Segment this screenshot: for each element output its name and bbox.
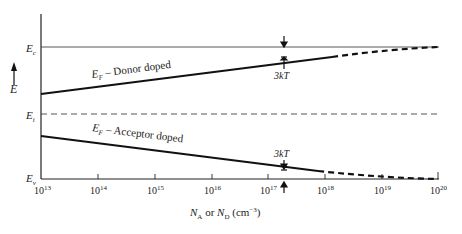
energy-axis-label: E — [9, 82, 18, 96]
x-ticks — [98, 172, 438, 179]
tick-label-1e18: 1018 — [317, 184, 335, 196]
acceptor-ef-dashed — [318, 171, 438, 179]
tick-label-1e13: 1013 — [34, 184, 52, 196]
donor-ef-dashed — [332, 47, 438, 57]
acceptor-3kt-marker — [281, 160, 287, 193]
tick-label-1e20: 1020 — [430, 184, 448, 196]
ei-label: Ei — [25, 109, 35, 124]
ec-label: Ec — [25, 42, 37, 57]
acceptor-3kt-label: 3kT — [273, 148, 290, 159]
tick-label-1e17: 1017 — [260, 184, 278, 196]
tick-label-1e15: 1015 — [147, 184, 165, 196]
tick-label-1e14: 1014 — [90, 184, 108, 196]
fermi-level-diagram: E Ec Ei Ev EF – Donor doped EF – Accepto… — [0, 0, 462, 234]
tick-label-1e19: 1019 — [374, 184, 392, 196]
x-tick-labels: 1013 1014 1015 1016 1017 1018 1019 1020 — [34, 184, 448, 196]
donor-3kt-label: 3kT — [273, 70, 290, 81]
tick-label-1e16: 1016 — [204, 184, 222, 196]
energy-arrow-head — [11, 62, 17, 71]
x-axis-label: NA or ND (cm−3) — [189, 206, 261, 221]
